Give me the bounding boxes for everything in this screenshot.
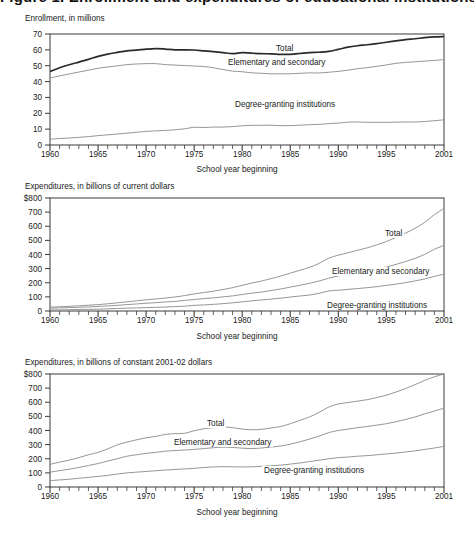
chart-2-ytick-8: 0 xyxy=(37,307,42,316)
chart-2-ytick-2: 600 xyxy=(28,222,42,231)
chart-3-xtick-3: 1975 xyxy=(185,492,204,501)
chart-1-ytick-2: 50 xyxy=(33,62,43,71)
chart-1-ytick-0: 70 xyxy=(33,30,43,39)
chart-1-x-tick-labels: 196019651970197519801985199019952001 xyxy=(41,150,454,159)
chart-1-ytick-5: 20 xyxy=(33,109,43,118)
chart-1-ytick-1: 60 xyxy=(33,46,43,55)
chart-2-xtick-8: 2001 xyxy=(435,316,454,325)
chart-3-plot: $800 700 600 500 400 300 200 100 0 19601… xyxy=(0,353,474,550)
chart-1-xtick-4: 1980 xyxy=(233,150,252,159)
chart-1-xtick-6: 1990 xyxy=(329,150,348,159)
chart-2-xtick-1: 1965 xyxy=(89,316,108,325)
chart-3-xtick-8: 2001 xyxy=(435,492,454,501)
chart-3-xtick-1: 1965 xyxy=(89,492,108,501)
chart-1-ytick-4: 30 xyxy=(33,93,43,102)
chart-1-xtick-0: 1960 xyxy=(41,150,60,159)
chart-3-series-total xyxy=(50,374,444,464)
chart-2-x-tick-labels: 196019651970197519801985199019952001 xyxy=(41,316,454,325)
chart-1-ytick-6: 10 xyxy=(33,125,43,134)
chart-3-ytick-4: 400 xyxy=(28,427,42,436)
chart-2-xtick-7: 1995 xyxy=(377,316,396,325)
chart-2-label-degree-granting: Degree-granting institutions xyxy=(325,301,429,310)
chart-2-xtick-6: 1990 xyxy=(329,316,348,325)
chart-2-series-elementary-secondary xyxy=(50,245,444,308)
chart-1-label-total: Total xyxy=(274,44,295,53)
chart-2-ytick-1: 700 xyxy=(28,208,42,217)
chart-3-ytick-0: $800 xyxy=(24,370,43,379)
chart-1-y-ticks xyxy=(45,34,50,145)
chart-3-ytick-3: 500 xyxy=(28,412,42,421)
chart-1-xtick-1: 1965 xyxy=(89,150,108,159)
chart-2-xtick-2: 1970 xyxy=(137,316,156,325)
chart-1-ytick-7: 0 xyxy=(37,141,42,150)
chart-3-xtick-0: 1960 xyxy=(41,492,60,501)
chart-1-xtick-2: 1970 xyxy=(137,150,156,159)
chart-3-plot-frame xyxy=(50,374,444,487)
chart-1-plot-frame xyxy=(50,34,444,145)
chart-1-xtick-5: 1985 xyxy=(281,150,300,159)
chart-3-label-elementary-secondary: Elementary and secondary xyxy=(172,438,273,447)
chart-panel-constant-dollars: Expenditures, in billions of constant 20… xyxy=(0,353,474,550)
chart-panel-enrollment: Enrollment, in millions 70 60 50 40 30 2… xyxy=(0,0,474,180)
chart-2-label-elementary-secondary: Elementary and secondary xyxy=(330,267,431,276)
chart-2-xtick-5: 1985 xyxy=(281,316,300,325)
chart-1-xtick-7: 1995 xyxy=(377,150,396,159)
chart-1-xtick-3: 1975 xyxy=(185,150,204,159)
chart-2-ytick-0: $800 xyxy=(24,194,43,203)
chart-2-ytick-6: 200 xyxy=(28,279,42,288)
chart-2-ytick-7: 100 xyxy=(28,293,42,302)
chart-1-plot: 70 60 50 40 30 20 10 0 19601965197019751… xyxy=(0,0,474,180)
chart-3-y-ticks xyxy=(45,374,50,487)
chart-1-label-elementary-secondary: Elementary and secondary xyxy=(226,58,327,67)
chart-3-series-degree-granting xyxy=(50,446,444,480)
chart-3-xtick-7: 1995 xyxy=(377,492,396,501)
chart-2-xtick-4: 1980 xyxy=(233,316,252,325)
chart-3-xtick-6: 1990 xyxy=(329,492,348,501)
chart-3-ytick-5: 300 xyxy=(28,441,42,450)
chart-1-xlabel: School year beginning xyxy=(0,165,474,174)
chart-2-ytick-4: 400 xyxy=(28,251,42,260)
chart-3-ytick-6: 200 xyxy=(28,455,42,464)
chart-2-series-total xyxy=(50,208,444,307)
chart-3-ytick-2: 600 xyxy=(28,398,42,407)
chart-panel-current-dollars: Expenditures, in billions of current dol… xyxy=(0,177,474,357)
chart-3-xtick-4: 1980 xyxy=(233,492,252,501)
chart-1-label-degree-granting: Degree-granting institutions xyxy=(233,100,337,109)
chart-3-xtick-2: 1970 xyxy=(137,492,156,501)
chart-1-xtick-8: 2001 xyxy=(435,150,454,159)
chart-2-y-ticks xyxy=(45,198,50,311)
chart-3-ytick-7: 100 xyxy=(28,469,42,478)
chart-3-ytick-8: 0 xyxy=(37,483,42,492)
chart-2-xtick-0: 1960 xyxy=(41,316,60,325)
chart-2-xlabel: School year beginning xyxy=(0,332,474,341)
chart-2-label-total: Total xyxy=(383,229,404,238)
chart-1-ytick-3: 40 xyxy=(33,78,43,87)
chart-1-series-degree-granting xyxy=(50,120,444,139)
chart-2-xtick-3: 1975 xyxy=(185,316,204,325)
chart-2-ytick-3: 500 xyxy=(28,236,42,245)
chart-3-label-total: Total xyxy=(205,419,226,428)
chart-2-ytick-5: 300 xyxy=(28,265,42,274)
chart-3-xtick-5: 1985 xyxy=(281,492,300,501)
chart-3-xlabel: School year beginning xyxy=(0,508,474,517)
chart-3-x-tick-labels: 196019651970197519801985199019952001 xyxy=(41,492,454,501)
chart-3-label-degree-granting: Degree-granting institutions xyxy=(262,466,366,475)
chart-3-ytick-1: 700 xyxy=(28,384,42,393)
